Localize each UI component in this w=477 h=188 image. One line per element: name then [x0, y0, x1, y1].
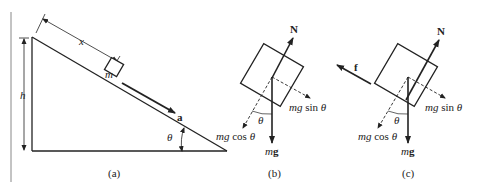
- perpendicular-component-label: mg cos θ: [216, 130, 256, 142]
- parallel-component-label-c: mg sin θ: [425, 101, 463, 113]
- weight-label-c: mg: [401, 145, 415, 157]
- friction-label: f: [354, 61, 358, 73]
- parallel-component-arrow: [272, 77, 310, 98]
- normal-label: N: [290, 23, 298, 35]
- panel-a: h x m a θ (a): [19, 14, 227, 180]
- acceleration-arrow: [122, 83, 175, 113]
- panel-b: N mg mg sin θ mg cos θ θ (b): [216, 23, 327, 180]
- panel-c: f N mg mg sin θ mg cos θ θ (c): [337, 25, 463, 180]
- angle-label: θ: [167, 131, 173, 143]
- angle-arc: [181, 128, 184, 151]
- parallel-component-label: mg sin θ: [289, 101, 327, 113]
- physics-diagram: h x m a θ (a) N mg mg sin θ mg: [0, 0, 477, 188]
- height-label: h: [20, 89, 26, 101]
- acceleration-label: a: [177, 111, 183, 123]
- mass-label: m: [105, 68, 113, 80]
- angle-label-c: θ: [394, 114, 400, 126]
- normal-label-c: N: [437, 25, 445, 37]
- normal-force-arrow-c: [406, 40, 439, 100]
- distance-label: x: [78, 35, 84, 47]
- perpendicular-component-arrow-c: [378, 77, 408, 128]
- normal-force-arrow: [272, 38, 293, 78]
- weight-label: mg: [265, 145, 279, 157]
- block-outline-c: [375, 44, 438, 107]
- caption-a: (a): [108, 167, 121, 180]
- incline-slope: [32, 37, 227, 151]
- caption-b: (b): [268, 167, 281, 180]
- perpendicular-component-label-c: mg cos θ: [358, 130, 398, 142]
- caption-c: (c): [402, 167, 415, 180]
- angle-label-b: θ: [258, 114, 264, 126]
